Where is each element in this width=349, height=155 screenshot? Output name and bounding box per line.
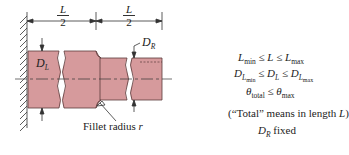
left-section-b [63, 51, 102, 108]
right-diameter-label: DR [142, 35, 155, 51]
fillet-leader [97, 101, 116, 121]
fixed-note: DR fixed [258, 124, 296, 139]
fillet-radius-label: Fillet radius r [83, 120, 143, 132]
constraint-length: Lmin ≤ L ≤ Lmax [238, 51, 304, 66]
right-half-label: L 2 [123, 3, 135, 28]
left-half-label: L 2 [57, 3, 69, 28]
constraint-twist: θtotal ≤ θmax [246, 85, 295, 100]
fixed-wall [20, 12, 27, 131]
total-note: (“Total” means in length L) [228, 107, 349, 119]
constraint-diameter: DLmin ≤ DL ≤ DLmax [234, 67, 313, 83]
left-diameter-label: DL [36, 56, 49, 72]
dimension-line [27, 12, 162, 30]
